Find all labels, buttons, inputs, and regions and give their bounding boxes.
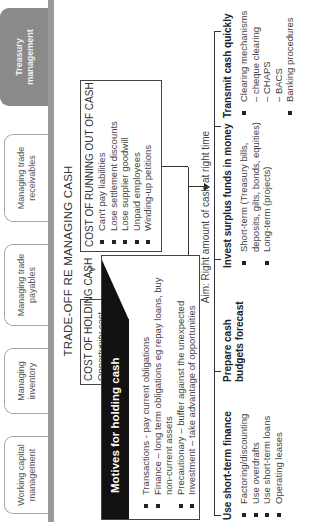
list-item: – BACS bbox=[273, 11, 285, 118]
list-item: Transactions - pay current obligations bbox=[140, 277, 152, 511]
cost-running-out-title: COST OF RUNNING OUT OF CASH bbox=[84, 85, 96, 247]
list-item: deposits, gilts, bonds, equities) bbox=[250, 122, 262, 268]
list-item: Use overdrafts bbox=[250, 411, 262, 520]
motives-box: Motives for holding cash Transactions - … bbox=[101, 255, 200, 520]
tab-treasury-management[interactable]: Treasury management bbox=[0, 8, 48, 106]
tab-label: Working capital management bbox=[16, 441, 38, 509]
list-item: Lose supplier goodwill bbox=[119, 85, 131, 247]
tab-bar bbox=[48, 0, 54, 522]
connector-line bbox=[162, 166, 188, 167]
tab-label: Managing trade receivables bbox=[16, 141, 38, 215]
branch-line bbox=[214, 32, 215, 516]
cost-running-out-list: Can't pay liabilities Lose settlement di… bbox=[96, 85, 154, 247]
branch-title: Invest surplus funds in money bbox=[222, 122, 234, 268]
motives-title: Motives for holding cash bbox=[109, 358, 121, 493]
list-item: non-current assets bbox=[163, 277, 175, 511]
branch-list: Factoring/discounting Use overdrafts Use… bbox=[238, 411, 284, 520]
branch-tick bbox=[214, 515, 221, 516]
list-item: Factoring/discounting bbox=[238, 411, 250, 520]
list-item: Short-term (Treasury bills, bbox=[238, 122, 250, 268]
list-item: Banking procedures bbox=[284, 11, 296, 118]
tab-managing-trade-payables[interactable]: Managing trade payables bbox=[4, 244, 48, 326]
tab-label: Treasury management bbox=[14, 27, 36, 87]
list-item: Can't pay liabilities bbox=[96, 85, 108, 247]
list-item: Lose settlement discounts bbox=[108, 85, 120, 247]
list-item: – cheque clearing bbox=[250, 11, 262, 118]
list-item: Use short-term loans bbox=[261, 411, 273, 520]
motives-header-wedge bbox=[102, 260, 129, 320]
list-item: – CHAPS bbox=[261, 11, 273, 118]
tab-managing-trade-receivables[interactable]: Managing trade receivables bbox=[4, 134, 48, 222]
aim-text: Aim: Right amount of cash at right time bbox=[200, 112, 211, 322]
branch-tick bbox=[214, 259, 221, 260]
motives-header: Motives for holding cash bbox=[102, 319, 129, 519]
branch-list: Short-term (Treasury bills, deposits, gi… bbox=[238, 122, 273, 268]
list-item: Clearing mechanisms bbox=[238, 11, 250, 118]
branch-short-term-finance: Use short-term finance Factoring/discoun… bbox=[222, 411, 284, 520]
list-item: Finance – long term obligations eg repay… bbox=[152, 277, 164, 511]
branch-title-line: Prepare cash bbox=[222, 301, 234, 382]
versus-label: v bbox=[86, 267, 97, 272]
tab-label: Managing inventory bbox=[16, 356, 38, 406]
tab-label: Managing trade payables bbox=[16, 249, 38, 321]
rotated-diagram-frame: Working capital management Managing inve… bbox=[0, 0, 329, 522]
motives-list: Transactions - pay current obligations F… bbox=[140, 277, 198, 511]
branch-tick bbox=[214, 371, 221, 372]
branch-invest-surplus: Invest surplus funds in money Short-term… bbox=[222, 122, 273, 268]
list-item: Winding-up petitions bbox=[142, 85, 154, 247]
list-item: Unpaid employees bbox=[131, 85, 143, 247]
tab-working-capital-management[interactable]: Working capital management bbox=[4, 436, 48, 514]
list-item: Investment – take advantage of opportuni… bbox=[186, 277, 198, 511]
branch-title: Use short-term finance bbox=[222, 411, 234, 520]
branch-tick bbox=[214, 31, 221, 32]
branch-transmit-cash: Transmit cash quickly Clearing mechanism… bbox=[222, 11, 296, 118]
connector-line bbox=[188, 167, 189, 255]
list-item: Long-term (projects) bbox=[261, 122, 273, 268]
branch-title-line: budgets forecast bbox=[234, 301, 246, 382]
tab-managing-inventory[interactable]: Managing inventory bbox=[4, 348, 48, 414]
list-item: Precautionary – buffer against the unexp… bbox=[175, 277, 187, 511]
cost-holding-title: COST OF HOLDING CASH bbox=[83, 303, 95, 381]
branch-tick bbox=[214, 126, 221, 127]
diagram-title: TRADE-OFF RE MANAGING CASH bbox=[62, 0, 74, 522]
branch-list: Clearing mechanisms – cheque clearing – … bbox=[238, 11, 296, 118]
cost-of-running-out-box: COST OF RUNNING OUT OF CASH Can't pay li… bbox=[80, 80, 162, 252]
branch-title: Transmit cash quickly bbox=[222, 11, 234, 118]
branch-cash-budgets: Prepare cash budgets forecast bbox=[222, 301, 246, 382]
list-item: Operating leases bbox=[273, 411, 285, 520]
